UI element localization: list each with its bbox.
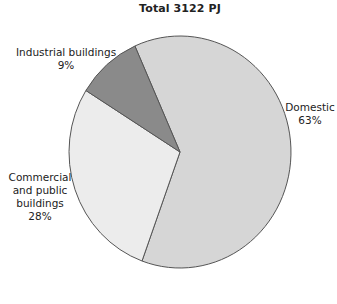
label-industrial: Industrial buildings 9%: [16, 46, 116, 72]
label-industrial-percent: 9%: [16, 59, 116, 72]
label-domestic-percent: 63%: [278, 114, 337, 127]
label-commercial-line1: Commercial: [2, 171, 78, 184]
label-commercial-line3: buildings: [2, 197, 78, 210]
label-industrial-name: Industrial buildings: [16, 46, 116, 59]
label-commercial: Commercial and public buildings 28%: [2, 171, 78, 223]
label-commercial-percent: 28%: [2, 210, 78, 223]
label-commercial-line2: and public: [2, 184, 78, 197]
label-domestic: Domestic 63%: [278, 101, 337, 127]
label-domestic-name: Domestic: [278, 101, 337, 114]
